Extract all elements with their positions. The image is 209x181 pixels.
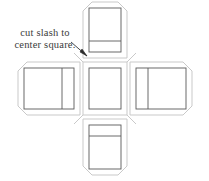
right-flap-inner-panel: [136, 68, 186, 109]
panel-right-flap: [130, 62, 192, 115]
annotation-label: cut slash to center square.: [6, 27, 84, 50]
notch-bottom-left: [74, 115, 83, 124]
diagram-canvas: cut slash to center square.: [0, 0, 209, 181]
panel-bottom-flap: [83, 119, 127, 175]
bottom-flap-inner-panel: [89, 125, 121, 169]
panel-top-flap: [83, 2, 127, 58]
top-flap-inner-panel: [89, 8, 121, 52]
left-flap-inner-panel: [24, 68, 74, 109]
notch-top-left: [74, 53, 83, 62]
panel-center-square: [83, 62, 127, 115]
center-square-inner-panel: [89, 68, 121, 109]
panel-left-flap: [18, 62, 80, 115]
notch-bottom-right: [127, 115, 136, 124]
notch-top-right: [127, 53, 136, 62]
